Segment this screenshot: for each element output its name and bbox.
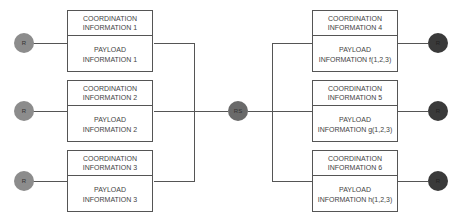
text: INFORMATION 1 [83,55,137,65]
packet-box-6: COORDINATIONINFORMATION 6 PAYLOADINFORMA… [312,150,398,212]
connector-src3 [30,181,67,182]
connector-dst2 [398,111,428,112]
text: INFORMATION 2 [83,93,137,102]
coordination-info: COORDINATIONINFORMATION 1 [68,11,152,36]
node-label: R [436,40,440,46]
node-label: R [22,178,26,184]
destination-node-1: R [428,33,448,53]
connector-right-vertical [272,43,273,182]
connector-dst3 [398,181,428,182]
text: COORDINATION [328,14,382,23]
text: PAYLOAD [339,185,371,195]
text: COORDINATION [328,154,382,163]
packet-box-1: COORDINATIONINFORMATION 1 PAYLOADINFORMA… [67,10,153,72]
source-node-3: R [14,171,34,191]
text: INFORMATION 5 [328,93,382,102]
coordination-info: COORDINATIONINFORMATION 5 [313,81,397,106]
text: INFORMATION 6 [328,163,382,172]
destination-node-3: R [428,171,448,191]
text: INFORMATION h(1,2,3) [318,195,393,205]
node-label: R [436,108,440,114]
coordination-info: COORDINATIONINFORMATION 3 [68,151,152,176]
connector-src2 [30,111,67,112]
payload-info: PAYLOADINFORMATION g(1,2,3) [313,106,397,143]
payload-info: PAYLOADINFORMATION f(1,2,3) [313,36,397,73]
text: COORDINATION [83,84,137,93]
connector-box2-out [154,111,228,112]
connector-box1-out [154,43,194,44]
connector-relay-out [248,111,312,112]
text: INFORMATION g(1,2,3) [318,125,393,135]
source-node-2: R [14,101,34,121]
text: INFORMATION f(1,2,3) [319,55,392,65]
text: PAYLOAD [339,115,371,125]
connector-box6-in [272,181,312,182]
text: INFORMATION 4 [328,23,382,32]
destination-node-2: R [428,101,448,121]
text: PAYLOAD [94,115,126,125]
text: INFORMATION 3 [83,163,137,172]
relay-node: RS [228,101,248,121]
payload-info: PAYLOADINFORMATION 3 [68,176,152,213]
text: COORDINATION [328,84,382,93]
text: COORDINATION [83,154,137,163]
connector-src1 [30,43,67,44]
text: PAYLOAD [339,45,371,55]
text: INFORMATION 1 [83,23,137,32]
source-node-1: R [14,33,34,53]
text: PAYLOAD [94,45,126,55]
connector-box4-in [272,43,312,44]
packet-box-2: COORDINATIONINFORMATION 2 PAYLOADINFORMA… [67,80,153,142]
text: COORDINATION [83,14,137,23]
payload-info: PAYLOADINFORMATION 1 [68,36,152,73]
connector-box3-out [154,181,194,182]
packet-box-5: COORDINATIONINFORMATION 5 PAYLOADINFORMA… [312,80,398,142]
node-label: R [22,108,26,114]
coordination-info: COORDINATIONINFORMATION 4 [313,11,397,36]
text: INFORMATION 3 [83,195,137,205]
node-label: R [436,178,440,184]
text: PAYLOAD [94,185,126,195]
payload-info: PAYLOADINFORMATION 2 [68,106,152,143]
text: INFORMATION 2 [83,125,137,135]
coordination-info: COORDINATIONINFORMATION 2 [68,81,152,106]
packet-box-4: COORDINATIONINFORMATION 4 PAYLOADINFORMA… [312,10,398,72]
payload-info: PAYLOADINFORMATION h(1,2,3) [313,176,397,213]
node-label: R [22,40,26,46]
connector-left-vertical [194,43,195,182]
connector-dst1 [398,43,428,44]
node-label: RS [234,108,242,114]
packet-box-3: COORDINATIONINFORMATION 3 PAYLOADINFORMA… [67,150,153,212]
coordination-info: COORDINATIONINFORMATION 6 [313,151,397,176]
